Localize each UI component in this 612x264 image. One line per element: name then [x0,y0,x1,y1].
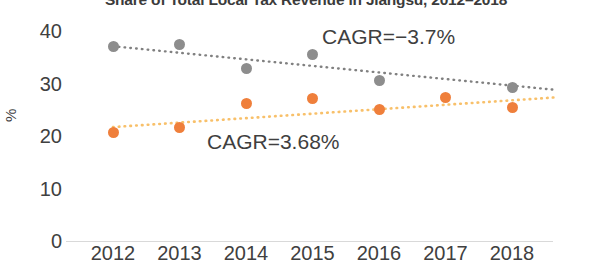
x-axis-tick: 2015 [280,243,346,263]
data-point [374,75,385,86]
cagr-annotation-orange: CAGR=3.68% [207,131,339,152]
x-axis-tick: 2018 [479,243,545,263]
x-axis-tick: 2013 [147,243,213,263]
chart-container: Share of Total Local Tax Revenue in Jian… [0,0,612,264]
data-point [374,104,385,115]
x-axis-tick: 2016 [346,243,412,263]
data-point [108,41,119,52]
data-point [507,102,518,113]
data-point [108,127,119,138]
x-axis-tick: 2012 [80,243,146,263]
x-axis-tick: 2014 [213,243,279,263]
x-axis-tick-labels: 2012201320142015201620172018 [0,243,612,264]
cagr-annotation-gray: CAGR=−3.7% [322,26,455,47]
data-point [174,39,185,50]
data-point [241,63,252,74]
gray-trendline [113,46,556,90]
data-point [507,82,518,93]
data-point [241,98,252,109]
x-axis-tick: 2017 [413,243,479,263]
